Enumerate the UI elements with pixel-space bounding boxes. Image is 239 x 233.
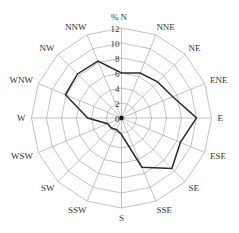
unit-label: %: [111, 12, 119, 22]
direction-label-ene: ENE: [210, 75, 228, 85]
direction-label-se: SE: [189, 183, 200, 193]
direction-label-nw: NW: [39, 43, 54, 53]
direction-label-ssw: SSW: [68, 205, 87, 215]
direction-label-e: E: [218, 113, 224, 123]
direction-label-nne: NNE: [156, 22, 175, 32]
direction-label-wnw: WNW: [10, 75, 34, 85]
direction-label-ese: ESE: [210, 151, 227, 161]
radial-tick-0: 0: [115, 114, 120, 124]
spoke-wsw: [38, 118, 121, 152]
spoke-nne: [122, 35, 156, 118]
wind-rose-svg: 024681012 NNNENEENEEESESESSESSSWSWWSWWWN…: [0, 0, 239, 233]
spoke-ese: [122, 118, 205, 152]
spoke-ne: [122, 54, 186, 118]
spoke-nw: [58, 54, 122, 118]
wind-rose-chart: 024681012 NNNENEENEEESESESSESSSWSWWSWWWN…: [0, 0, 239, 233]
direction-label-n: N: [121, 12, 128, 22]
direction-label-sse: SSE: [156, 205, 172, 215]
radial-tick-10: 10: [111, 39, 121, 49]
spoke-ene: [122, 84, 205, 118]
radial-tick-4: 4: [115, 84, 120, 94]
radial-tick-8: 8: [115, 54, 120, 64]
direction-label-w: W: [17, 113, 26, 123]
radial-tick-2: 2: [115, 99, 120, 109]
series-line-0: [65, 61, 196, 168]
data-series: [65, 61, 196, 168]
direction-label-s: S: [119, 213, 124, 223]
center-marker: [119, 116, 123, 120]
direction-label-sw: SW: [41, 183, 55, 193]
radial-tick-12: 12: [111, 24, 120, 34]
direction-label-wsw: WSW: [11, 151, 34, 161]
direction-label-nnw: NNW: [65, 22, 87, 32]
spoke-wnw: [38, 84, 121, 118]
direction-label-ne: NE: [189, 43, 201, 53]
spoke-sse: [122, 118, 156, 201]
